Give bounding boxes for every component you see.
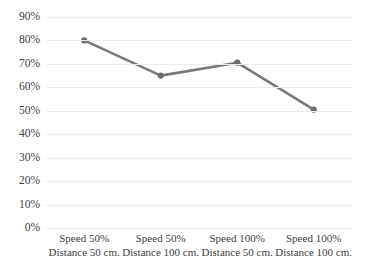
data-point-marker	[234, 60, 240, 66]
plot-area	[46, 17, 352, 228]
y-axis-tick-label: 70%	[0, 58, 40, 70]
x-axis-category-label: Speed 50%Distance 100 cm.	[122, 231, 199, 271]
gridline	[46, 64, 352, 65]
x-axis-category-line1: Speed 100%	[275, 231, 352, 245]
x-axis-category-line1: Speed 50%	[122, 231, 199, 245]
y-axis-tick-label: 30%	[0, 152, 40, 164]
y-axis-tick-label: 60%	[0, 82, 40, 94]
x-axis-category-line1: Speed 100%	[199, 231, 275, 245]
gridline	[46, 205, 352, 206]
x-axis-category-line2: Distance 100 cm.	[275, 245, 352, 259]
x-axis-category-label: Speed 100%Distance 50 cm.	[199, 231, 275, 271]
gridline	[46, 228, 352, 229]
x-axis-category-label: Speed 50%Distance 50 cm.	[46, 231, 122, 271]
data-series-layer	[46, 17, 352, 228]
x-axis-category-line2: Distance 50 cm.	[199, 245, 275, 259]
data-point-marker	[158, 73, 164, 79]
x-axis-category-line2: Distance 100 cm.	[122, 245, 199, 259]
series-markers	[81, 37, 317, 112]
gridline	[46, 158, 352, 159]
y-axis-tick-label: 10%	[0, 199, 40, 211]
gridline	[46, 111, 352, 112]
y-axis-tick-label: 0%	[0, 222, 40, 234]
gridline	[46, 87, 352, 88]
x-axis-category-line1: Speed 50%	[46, 231, 122, 245]
data-point-marker	[311, 107, 317, 113]
x-axis: Speed 50%Distance 50 cm.Speed 50%Distanc…	[46, 231, 352, 271]
gridline	[46, 40, 352, 41]
gridline	[46, 17, 352, 18]
line-chart: 0%10%20%30%40%50%60%70%80%90% Speed 50%D…	[0, 0, 365, 271]
y-axis-tick-label: 20%	[0, 175, 40, 187]
gridline	[46, 181, 352, 182]
x-axis-category-line2: Distance 50 cm.	[46, 245, 122, 259]
y-axis: 0%10%20%30%40%50%60%70%80%90%	[0, 0, 44, 271]
y-axis-tick-label: 80%	[0, 35, 40, 47]
gridline	[46, 134, 352, 135]
y-axis-tick-label: 90%	[0, 11, 40, 23]
series-line	[84, 40, 314, 109]
y-axis-tick-label: 40%	[0, 128, 40, 140]
x-axis-category-label: Speed 100%Distance 100 cm.	[275, 231, 352, 271]
y-axis-tick-label: 50%	[0, 105, 40, 117]
